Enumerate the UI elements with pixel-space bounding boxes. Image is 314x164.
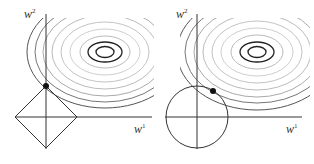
inner-contour-outer (88, 42, 122, 62)
inner-contour-outer (240, 42, 274, 62)
inner-contour-inner (248, 47, 266, 58)
l1-panel (15, 0, 183, 149)
solution-dot (210, 88, 216, 94)
y-axis-label-right: w2 (176, 8, 188, 20)
solution-dot (43, 83, 49, 89)
inner-contour-inner (96, 47, 114, 58)
contour-lines (27, 0, 183, 108)
x-axis-label-right: w1 (286, 123, 298, 135)
contour-lines (177, 0, 314, 110)
x-axis-label-left: w1 (134, 123, 146, 135)
y-axis-label-left: w2 (24, 8, 36, 20)
diagram-canvas (0, 0, 314, 164)
